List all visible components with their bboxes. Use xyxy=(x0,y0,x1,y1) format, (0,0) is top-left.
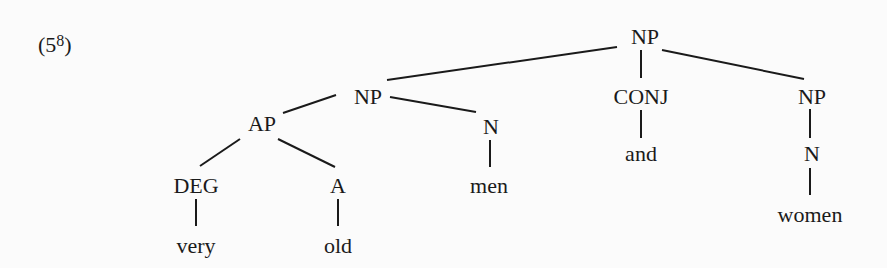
tree-edge-np-left-ap xyxy=(283,95,336,113)
tree-edge-ap-a xyxy=(278,139,335,167)
tree-node-a: A xyxy=(330,175,346,197)
tree-node-n-women: N xyxy=(804,143,820,165)
tree-node-women: women xyxy=(778,204,843,226)
tree-edge-np-root-np-right xyxy=(662,50,804,79)
tree-edges xyxy=(0,0,887,268)
tree-node-deg: DEG xyxy=(173,175,218,197)
tree-node-ap: AP xyxy=(248,113,276,135)
tree-node-np-root: NP xyxy=(631,26,659,48)
tree-edge-ap-deg xyxy=(200,139,240,166)
tree-edge-np-left-n-men xyxy=(390,97,476,112)
tree-node-conj: CONJ xyxy=(613,86,668,108)
tree-node-men: men xyxy=(470,175,508,197)
tree-edge-np-root-np-left xyxy=(387,47,617,80)
tree-node-old: old xyxy=(324,235,352,257)
tree-node-very: very xyxy=(176,235,215,257)
tree-node-np-left: NP xyxy=(354,86,382,108)
tree-node-n-men: N xyxy=(483,116,499,138)
tree-node-np-right: NP xyxy=(798,86,826,108)
tree-node-and: and xyxy=(625,143,657,165)
